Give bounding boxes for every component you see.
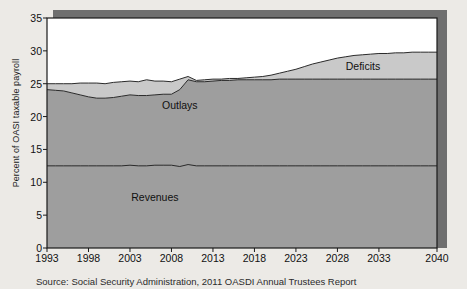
- series-label-deficits: Deficits: [346, 60, 380, 72]
- series-label-outlays: Outlays: [162, 99, 198, 111]
- chart-figure: Percent of OASI taxable payroll 05101520…: [0, 0, 467, 289]
- chart-plot-area: [0, 0, 467, 289]
- series-label-revenues: Revenues: [131, 191, 178, 203]
- source-note: Source: Social Security Administration, …: [36, 276, 356, 287]
